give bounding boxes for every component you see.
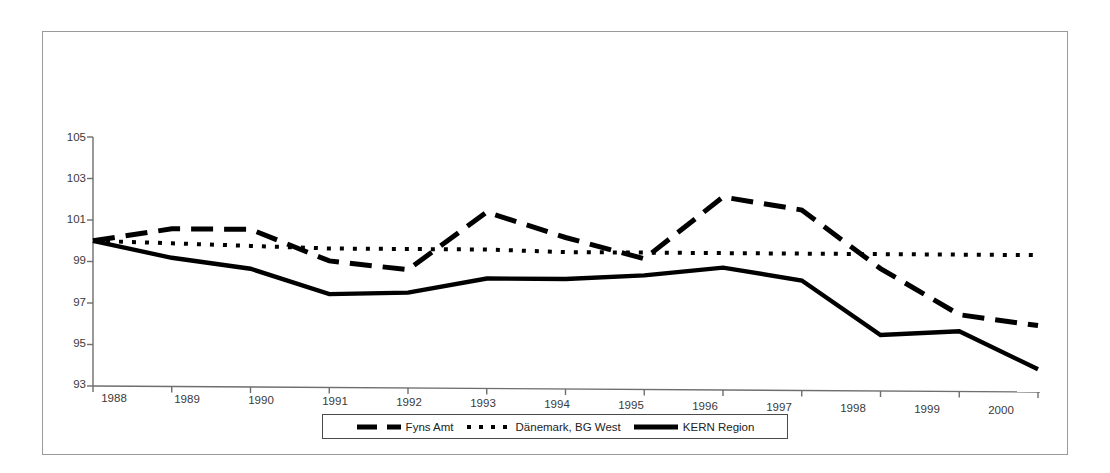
y-tick-label-103: 103 (52, 172, 86, 184)
legend-swatch-solid-icon (633, 421, 679, 433)
chart-legend: Fyns Amt Dänemark, BG West KERN Region (322, 414, 788, 439)
y-tick-label-99: 99 (52, 254, 86, 266)
x-tick-label-1990: 1990 (231, 394, 291, 406)
legend-swatch-dotted-icon (466, 421, 512, 433)
x-tick-label-1993: 1993 (453, 397, 513, 409)
x-tick-label-1994: 1994 (527, 398, 587, 410)
legend-swatch-dashed-icon (356, 421, 402, 433)
y-tick-label-93: 93 (52, 378, 86, 390)
x-tick-label-1996: 1996 (675, 400, 735, 412)
chart-frame (42, 31, 1068, 455)
y-tick-label-105: 105 (52, 131, 86, 143)
x-tick-label-2000: 2000 (971, 404, 1031, 416)
x-tick-label-1998: 1998 (823, 402, 883, 414)
y-tick-label-101: 101 (52, 213, 86, 225)
x-tick-label-1992: 1992 (379, 396, 439, 408)
x-tick-label-1997: 1997 (749, 401, 809, 413)
x-tick-label-1988: 1988 (84, 392, 144, 404)
y-tick-label-95: 95 (52, 337, 86, 349)
x-tick-label-1989: 1989 (157, 393, 217, 405)
legend-label-danemark: Dänemark, BG West (516, 421, 621, 433)
legend-label-kern-region: KERN Region (683, 421, 755, 433)
x-tick-label-1999: 1999 (897, 403, 957, 415)
legend-item-danemark: Dänemark, BG West (460, 421, 627, 433)
legend-item-kern-region: KERN Region (627, 421, 761, 433)
legend-item-fyns-amt: Fyns Amt (350, 421, 460, 433)
chart-figure: 105 103 101 99 97 95 93 1988 1989 1990 1… (0, 0, 1110, 473)
x-tick-label-1991: 1991 (305, 395, 365, 407)
legend-label-fyns-amt: Fyns Amt (406, 421, 454, 433)
y-tick-label-97: 97 (52, 296, 86, 308)
x-tick-label-1995: 1995 (601, 399, 661, 411)
